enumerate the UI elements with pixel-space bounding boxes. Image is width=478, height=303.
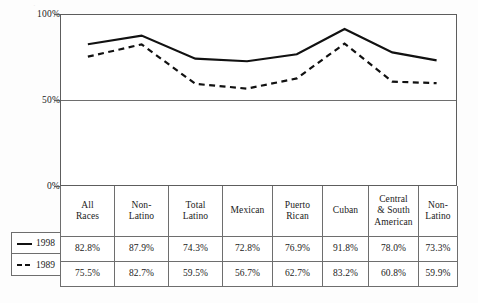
table-header-row: AllRacesNon-LatinoTotalLatinoMexicanPuer… (61, 186, 458, 237)
y-tick-label-0: 0% (8, 181, 60, 191)
dashed-line-icon (17, 261, 32, 268)
table-header-cell: Non-Latino (419, 186, 458, 237)
table-cell: 62.7% (273, 262, 323, 287)
table-cell: 60.8% (369, 262, 419, 287)
y-tick-label-100: 100% (8, 9, 60, 19)
y-tick-label-50: 50% (8, 95, 60, 105)
table-cell: 56.7% (223, 262, 273, 287)
table-cell: 76.9% (273, 237, 323, 262)
table-header-cell: Mexican (223, 186, 273, 237)
data-table-wrapper: AllRacesNon-LatinoTotalLatinoMexicanPuer… (60, 186, 457, 287)
legend-item-1998: 1998 (11, 232, 61, 254)
table-cell: 91.8% (323, 237, 369, 262)
scan-artifact: · (33, 1, 36, 10)
table-header-cell: TotalLatino (169, 186, 223, 237)
plot-area (60, 14, 457, 186)
table-cell: 83.2% (323, 262, 369, 287)
table-cell: 82.7% (115, 262, 169, 287)
table-header-cell: Non-Latino (115, 186, 169, 237)
table-header-cell: PuertoRican (273, 186, 323, 237)
data-table: AllRacesNon-LatinoTotalLatinoMexicanPuer… (60, 186, 458, 287)
table-cell: 82.8% (61, 237, 115, 262)
legend-label-1998: 1998 (36, 238, 55, 248)
table-header-cell: AllRaces (61, 186, 115, 237)
solid-line-icon (17, 240, 32, 247)
table-cell: 72.8% (223, 237, 273, 262)
series-line-1989 (88, 44, 437, 89)
legend: 1998 1989 (11, 232, 61, 276)
legend-label-1989: 1989 (36, 260, 55, 270)
y-axis: 100% 50% 0% (0, 0, 60, 200)
table-cell: 59.9% (419, 262, 458, 287)
table-header-cell: Central& SouthAmerican (369, 186, 419, 237)
table-row: 82.8%87.9%74.3%72.8%76.9%91.8%78.0%73.3% (61, 237, 458, 262)
table-cell: 59.5% (169, 262, 223, 287)
table-row: 75.5%82.7%59.5%56.7%62.7%83.2%60.8%59.9% (61, 262, 458, 287)
table-cell: 75.5% (61, 262, 115, 287)
table-header-cell: Cuban (323, 186, 369, 237)
legend-item-1989: 1989 (11, 254, 61, 276)
table-cell: 74.3% (169, 237, 223, 262)
table-cell: 78.0% (369, 237, 419, 262)
chart-figure: 100% 50% 0% 1998 1989 (0, 0, 478, 303)
table-cell: 87.9% (115, 237, 169, 262)
series-lines (61, 15, 456, 185)
table-cell: 73.3% (419, 237, 458, 262)
